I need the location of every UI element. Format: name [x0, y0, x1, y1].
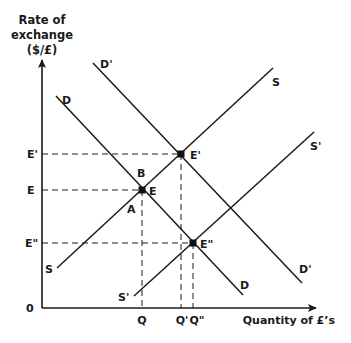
- x-axis-title: Quantity of £’s: [243, 314, 336, 327]
- y-axis-title-line3: ($/£): [27, 43, 58, 57]
- equilibrium-point-e-prime: [178, 151, 185, 158]
- x-tick-q: Q: [137, 314, 146, 327]
- y-tick-e-dprime: E": [25, 237, 38, 250]
- label-s-top: S: [272, 76, 280, 89]
- label-point-e-prime: E': [190, 149, 201, 162]
- label-s-bottom: S: [45, 263, 53, 276]
- area-label-b: B: [137, 167, 145, 180]
- label-d-prime-bottom: D': [299, 263, 312, 276]
- label-s-prime-top: S': [310, 140, 321, 153]
- label-s-prime-bottom: S': [118, 291, 129, 304]
- guide-lines: [42, 154, 193, 308]
- label-point-e-dprime: E": [200, 238, 213, 251]
- x-tick-q-prime: Q': [176, 314, 189, 327]
- label-point-e: E: [149, 185, 157, 198]
- exchange-rate-diagram: Rate of exchange ($/£) E' E E" 0 Q Q' Q"…: [0, 0, 351, 343]
- y-tick-e: E: [27, 184, 35, 197]
- y-tick-e-prime: E': [27, 148, 38, 161]
- supply-curve-s-prime: [134, 132, 314, 296]
- label-d-bottom: D: [240, 279, 249, 292]
- x-tick-q-dprime: Q": [189, 314, 204, 327]
- label-d-prime-top: D': [100, 58, 113, 71]
- y-axis-title-line2: exchange: [11, 28, 73, 42]
- equilibrium-point-e-dprime: [190, 240, 197, 247]
- area-label-a: A: [127, 203, 136, 216]
- equilibrium-point-e: [139, 187, 146, 194]
- y-axis-title-line1: Rate of: [19, 13, 67, 27]
- label-d-top: D: [62, 94, 71, 107]
- demand-curve-d-prime: [93, 63, 302, 283]
- origin-label: 0: [26, 302, 34, 315]
- supply-curve-s: [57, 68, 273, 268]
